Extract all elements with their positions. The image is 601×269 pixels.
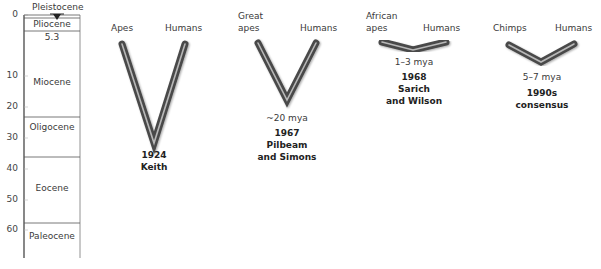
tree3-author-1: Sarich: [378, 84, 450, 94]
tick-0: 0: [0, 9, 18, 19]
tick-20: 20: [0, 101, 18, 111]
timeline-column: [24, 14, 80, 258]
tree2-divergence: ~20 mya: [252, 113, 322, 123]
tree1-left-label: Apes: [111, 23, 133, 33]
tree3-year: 1968: [378, 72, 450, 82]
boundary-5-3: 5.3: [24, 32, 80, 42]
tree2-right-label: Humans: [300, 23, 337, 33]
tree4-right-label: Humans: [555, 23, 592, 33]
epoch-miocene: Miocene: [24, 77, 80, 87]
tree3-left-label-line1: African: [366, 11, 397, 21]
tree3-right-label: Humans: [423, 23, 460, 33]
tick-50: 50: [0, 194, 18, 204]
tree-1924-keith: [122, 44, 185, 143]
tree2-left-label-line2: apes: [238, 23, 259, 33]
epoch-oligocene: Oligocene: [24, 122, 80, 132]
tree4-year: 1990s: [506, 88, 578, 98]
tree2-author-1: Pilbeam: [252, 140, 322, 150]
tree1-right-label: Humans: [165, 23, 202, 33]
tree3-author-2: and Wilson: [378, 96, 450, 106]
tree2-left-label-line1: Great: [238, 11, 263, 21]
tick-10: 10: [0, 70, 18, 80]
tick-60: 60: [0, 224, 18, 234]
tree2-author-2: and Simons: [252, 152, 322, 162]
tree4-divergence: 5–7 mya: [506, 72, 578, 82]
tick-40: 40: [0, 163, 18, 173]
pleistocene-label: Pleistocene: [32, 2, 83, 12]
tick-30: 30: [0, 132, 18, 142]
tree-1990s-consensus: [509, 44, 574, 62]
tree1-author: Keith: [124, 162, 184, 172]
tree1-year: 1924: [124, 150, 184, 160]
tree-1968-sarich-wilson: [382, 42, 446, 50]
tree4-left-label: Chimps: [493, 23, 527, 33]
tree-1967-pilbeam-simons: [258, 43, 316, 100]
epoch-paleocene: Paleocene: [24, 231, 80, 241]
epoch-eocene: Eocene: [24, 183, 80, 193]
tree3-divergence: 1–3 mya: [378, 57, 450, 67]
epoch-pliocene: Pliocene: [24, 19, 80, 29]
tree4-author: consensus: [506, 100, 578, 110]
tree2-year: 1967: [252, 128, 322, 138]
tree3-left-label-line2: apes: [366, 23, 387, 33]
